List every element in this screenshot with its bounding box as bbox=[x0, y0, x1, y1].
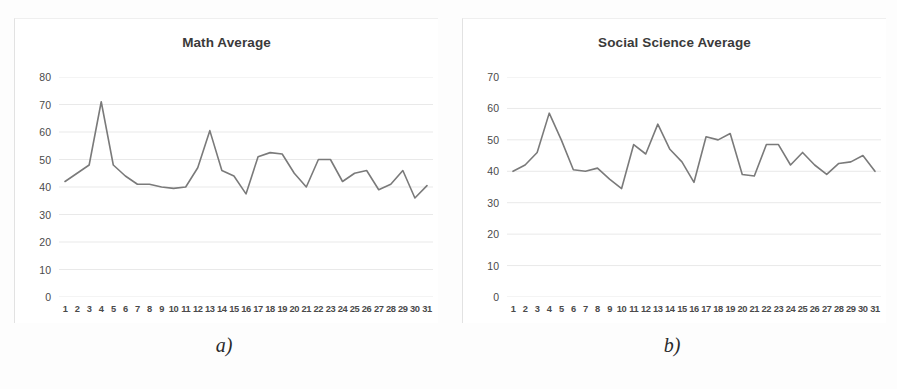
x-axis-tick-0: 16 bbox=[240, 302, 252, 318]
data-series-line bbox=[513, 113, 875, 188]
y-axis-tick-1: 60 bbox=[487, 102, 499, 114]
line-chart-social-science bbox=[507, 77, 881, 297]
y-axis-tick-0: 60 bbox=[39, 126, 51, 138]
x-axis-tick-1: 27 bbox=[821, 302, 833, 318]
x-axis-tick-1: 11 bbox=[628, 302, 640, 318]
x-axis-tick-0: 11 bbox=[180, 302, 192, 318]
y-axis-social-science: 706050403020100 bbox=[469, 77, 499, 297]
x-axis-tick-0: 21 bbox=[300, 302, 312, 318]
y-axis-tick-0: 40 bbox=[39, 181, 51, 193]
x-axis-tick-0: 9 bbox=[156, 302, 168, 318]
x-axis-tick-1: 28 bbox=[833, 302, 845, 318]
x-axis-tick-0: 15 bbox=[228, 302, 240, 318]
x-axis-tick-1: 12 bbox=[640, 302, 652, 318]
x-axis-tick-0: 24 bbox=[336, 302, 348, 318]
x-axis-tick-0: 7 bbox=[131, 302, 143, 318]
chart-panel-social-science: Social Science Average 706050403020100 1… bbox=[462, 18, 886, 323]
x-axis-tick-0: 30 bbox=[409, 302, 421, 318]
line-chart-math bbox=[59, 77, 433, 297]
plot-area-social-science: 706050403020100 123456789101112131415161… bbox=[463, 19, 886, 323]
y-axis-tick-0: 70 bbox=[39, 99, 51, 111]
x-axis-tick-0: 29 bbox=[397, 302, 409, 318]
x-axis-tick-1: 21 bbox=[748, 302, 760, 318]
chart-panel-math: Math Average 80706050403020100 123456789… bbox=[14, 18, 438, 323]
x-axis-tick-1: 26 bbox=[809, 302, 821, 318]
x-axis-social-science: 1234567891011121314151617181920212223242… bbox=[507, 302, 881, 318]
y-axis-tick-1: 20 bbox=[487, 228, 499, 240]
x-axis-tick-0: 18 bbox=[264, 302, 276, 318]
x-axis-tick-0: 6 bbox=[119, 302, 131, 318]
x-axis-tick-0: 3 bbox=[83, 302, 95, 318]
data-series-line bbox=[65, 102, 427, 198]
y-axis-tick-1: 0 bbox=[493, 291, 499, 303]
x-axis-tick-0: 19 bbox=[276, 302, 288, 318]
y-axis-tick-1: 70 bbox=[487, 71, 499, 83]
x-axis-tick-1: 29 bbox=[845, 302, 857, 318]
x-axis-tick-1: 24 bbox=[784, 302, 796, 318]
x-axis-tick-1: 23 bbox=[772, 302, 784, 318]
figure-panel-a: Math Average 80706050403020100 123456789… bbox=[0, 0, 448, 389]
x-axis-tick-0: 20 bbox=[288, 302, 300, 318]
y-axis-tick-1: 40 bbox=[487, 165, 499, 177]
x-axis-tick-1: 30 bbox=[857, 302, 869, 318]
x-axis-tick-1: 25 bbox=[797, 302, 809, 318]
x-axis-tick-0: 22 bbox=[312, 302, 324, 318]
y-axis-tick-0: 0 bbox=[45, 291, 51, 303]
figure-caption-a: a) bbox=[0, 334, 448, 357]
x-axis-tick-0: 26 bbox=[361, 302, 373, 318]
x-axis-tick-1: 22 bbox=[760, 302, 772, 318]
figure-panel-b: Social Science Average 706050403020100 1… bbox=[448, 0, 896, 389]
x-axis-tick-1: 1 bbox=[507, 302, 519, 318]
x-axis-tick-1: 2 bbox=[519, 302, 531, 318]
x-axis-tick-1: 15 bbox=[676, 302, 688, 318]
x-axis-tick-1: 20 bbox=[736, 302, 748, 318]
y-axis-tick-1: 30 bbox=[487, 197, 499, 209]
y-axis-tick-1: 50 bbox=[487, 134, 499, 146]
x-axis-tick-1: 8 bbox=[591, 302, 603, 318]
x-axis-tick-1: 7 bbox=[579, 302, 591, 318]
x-axis-tick-1: 14 bbox=[664, 302, 676, 318]
x-axis-tick-0: 4 bbox=[95, 302, 107, 318]
y-axis-tick-0: 30 bbox=[39, 209, 51, 221]
x-axis-tick-1: 9 bbox=[604, 302, 616, 318]
x-axis-tick-0: 10 bbox=[168, 302, 180, 318]
x-axis-tick-1: 6 bbox=[567, 302, 579, 318]
x-axis-tick-0: 14 bbox=[216, 302, 228, 318]
plot-area-math: 80706050403020100 1234567891011121314151… bbox=[15, 19, 438, 323]
y-axis-tick-0: 80 bbox=[39, 71, 51, 83]
figure-page: Math Average 80706050403020100 123456789… bbox=[0, 0, 897, 389]
y-axis-math: 80706050403020100 bbox=[21, 77, 51, 297]
x-axis-tick-0: 27 bbox=[373, 302, 385, 318]
x-axis-tick-0: 2 bbox=[71, 302, 83, 318]
figure-caption-b: b) bbox=[448, 334, 896, 357]
x-axis-math: 1234567891011121314151617181920212223242… bbox=[59, 302, 433, 318]
x-axis-tick-0: 8 bbox=[143, 302, 155, 318]
x-axis-tick-0: 1 bbox=[59, 302, 71, 318]
x-axis-tick-0: 13 bbox=[204, 302, 216, 318]
x-axis-tick-0: 17 bbox=[252, 302, 264, 318]
x-axis-tick-0: 12 bbox=[192, 302, 204, 318]
x-axis-tick-1: 19 bbox=[724, 302, 736, 318]
x-axis-tick-1: 10 bbox=[616, 302, 628, 318]
x-axis-tick-0: 25 bbox=[349, 302, 361, 318]
figure-row: Math Average 80706050403020100 123456789… bbox=[0, 0, 897, 389]
x-axis-tick-0: 31 bbox=[421, 302, 433, 318]
x-axis-tick-0: 5 bbox=[107, 302, 119, 318]
y-axis-tick-1: 10 bbox=[487, 260, 499, 272]
y-axis-tick-0: 10 bbox=[39, 264, 51, 276]
x-axis-tick-1: 4 bbox=[543, 302, 555, 318]
x-axis-tick-1: 31 bbox=[869, 302, 881, 318]
y-axis-tick-0: 20 bbox=[39, 236, 51, 248]
x-axis-tick-0: 23 bbox=[324, 302, 336, 318]
y-axis-tick-0: 50 bbox=[39, 154, 51, 166]
x-axis-tick-1: 3 bbox=[531, 302, 543, 318]
x-axis-tick-1: 18 bbox=[712, 302, 724, 318]
x-axis-tick-0: 28 bbox=[385, 302, 397, 318]
x-axis-tick-1: 16 bbox=[688, 302, 700, 318]
x-axis-tick-1: 13 bbox=[652, 302, 664, 318]
x-axis-tick-1: 17 bbox=[700, 302, 712, 318]
x-axis-tick-1: 5 bbox=[555, 302, 567, 318]
